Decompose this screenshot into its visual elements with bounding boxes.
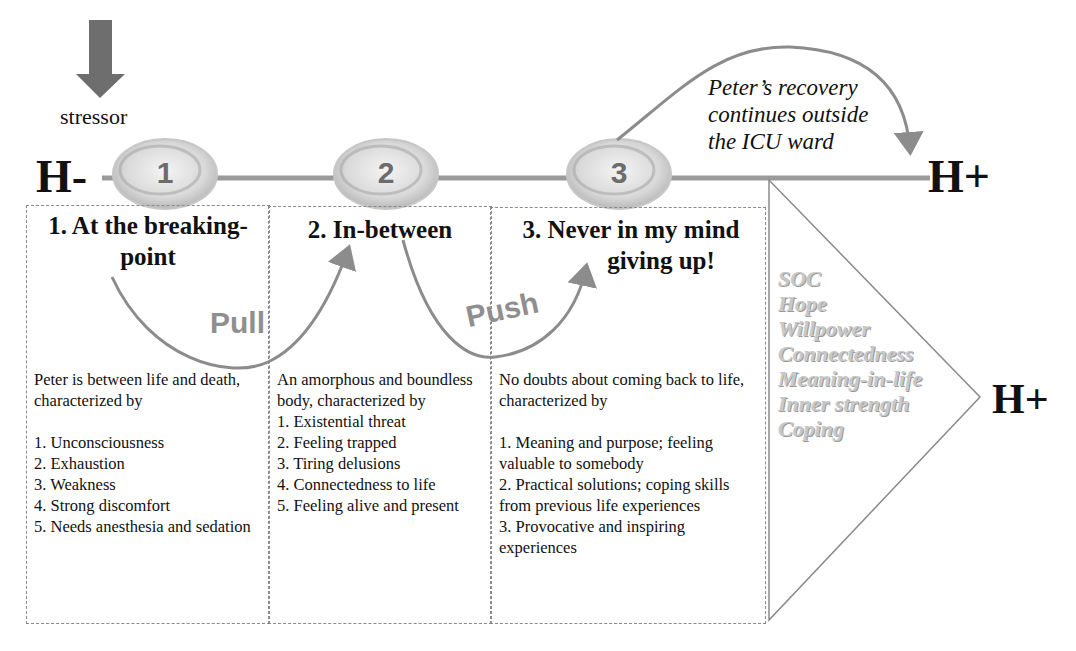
resource-item: Meaning-in-life [778, 366, 922, 391]
title-line: giving up! [500, 245, 762, 276]
stage-2-list: 1. Existential threat 2. Feeling trapped… [277, 411, 489, 516]
list-item: 5. Feeling alive and present [277, 495, 489, 516]
list-item: 3. Provocative and inspiring experiences [499, 516, 761, 558]
list-item: 4. Connectedness to life [277, 474, 489, 495]
stage-1-title: 1. At the breaking- point [28, 210, 268, 272]
node-number-2: 2 [366, 156, 406, 190]
list-item: 1. Meaning and purpose; feeling valuable… [499, 432, 761, 474]
resource-item: Coping [778, 416, 922, 441]
stage-1-list: 1. Unconsciousness 2. Exhaustion 3. Weak… [34, 432, 264, 537]
list-item: 3. Weakness [34, 474, 264, 495]
recovery-note-line: Peter’s recovery [708, 74, 868, 101]
list-item: 1. Existential threat [277, 411, 489, 432]
title-line: 2. In-between [270, 214, 490, 245]
title-line: 1. At the breaking- [28, 210, 268, 241]
stage-2-text: An amorphous and boundless body, charact… [277, 369, 489, 516]
recovery-note-line: continues outside [708, 101, 868, 128]
resource-item: Hope [778, 291, 922, 316]
recovery-note-line: the ICU ward [708, 128, 868, 155]
resource-item: SOC [778, 266, 922, 291]
stage-1-text: Peter is between life and death, charact… [34, 369, 264, 537]
node-number-1: 1 [145, 156, 185, 190]
title-line: point [28, 241, 268, 272]
resource-item: Connectedness [778, 341, 922, 366]
list-item: 5. Needs anesthesia and sedation [34, 516, 264, 537]
stage-3-title: 3. Never in my mind giving up! [500, 214, 762, 276]
title-line: 3. Never in my mind [500, 214, 762, 245]
list-item: 4. Strong discomfort [34, 495, 264, 516]
resources-target-label: H+ [992, 378, 1049, 420]
resource-item: Inner strength [778, 391, 922, 416]
end-health-label: H+ [928, 154, 990, 200]
stressor-label: stressor [60, 104, 127, 130]
stage-3-text: No doubts about coming back to life, cha… [499, 369, 761, 558]
resources-list: SOC Hope Willpower Connectedness Meaning… [778, 266, 922, 441]
list-item: 3. Tiring delusions [277, 453, 489, 474]
list-item: 2. Practical solutions; coping skills fr… [499, 474, 761, 516]
node-number-3: 3 [599, 156, 639, 190]
pull-label: Pull [210, 306, 265, 340]
resource-item: Willpower [778, 316, 922, 341]
stage-1-intro: Peter is between life and death, charact… [34, 369, 264, 411]
recovery-note: Peter’s recovery continues outside the I… [708, 74, 868, 155]
start-health-label: H- [36, 154, 87, 200]
stressor-arrow-icon [76, 20, 125, 98]
stage-3-intro: No doubts about coming back to life, cha… [499, 369, 761, 411]
stage-2-intro: An amorphous and boundless body, charact… [277, 369, 489, 411]
list-item: 2. Exhaustion [34, 453, 264, 474]
list-item: 1. Unconsciousness [34, 432, 264, 453]
list-item: 2. Feeling trapped [277, 432, 489, 453]
stage-2-title: 2. In-between [270, 214, 490, 245]
